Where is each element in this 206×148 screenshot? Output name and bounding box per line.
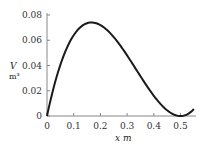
y-axis-label-symbol: V (10, 61, 18, 71)
axes (47, 13, 196, 116)
x-axis-label: x m (115, 133, 131, 143)
y-ticks: 00.020.040.060.08 (22, 10, 50, 121)
x-tick-label: 0 (44, 121, 50, 131)
y-tick-label: 0 (36, 111, 42, 121)
x-tick-label: 0.3 (120, 121, 135, 131)
y-tick-label: 0.08 (22, 10, 42, 20)
x-tick-label: 0.1 (67, 121, 81, 131)
y-tick-label: 0.04 (22, 61, 42, 71)
y-axis-label-unit: m³ (9, 72, 20, 81)
x-tick-label: 0.4 (147, 121, 162, 131)
y-tick-label: 0.06 (22, 35, 42, 45)
data-line (47, 22, 194, 116)
x-tick-label: 0.2 (93, 121, 107, 131)
chart: 00.020.040.060.08 00.10.20.30.40.5 V m³ … (0, 0, 206, 148)
x-tick-label: 0.5 (173, 121, 188, 131)
y-tick-label: 0.02 (22, 86, 42, 96)
